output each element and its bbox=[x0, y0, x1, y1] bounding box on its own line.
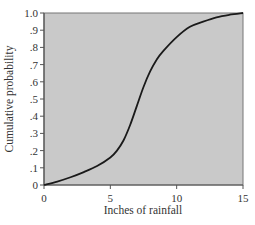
y-axis-ticks: 0.1.2.3.4.5.6.7.8.91.0 bbox=[24, 7, 44, 191]
y-tick-label: .5 bbox=[30, 93, 39, 105]
y-tick-label: .4 bbox=[30, 110, 39, 122]
y-tick-label: .6 bbox=[30, 76, 39, 88]
x-tick-label: 15 bbox=[238, 192, 250, 204]
x-axis-title: Inches of rainfall bbox=[104, 204, 183, 216]
y-tick-label: .3 bbox=[30, 127, 39, 139]
y-tick-label: .2 bbox=[30, 145, 38, 157]
cdf-chart: 0.1.2.3.4.5.6.7.8.91.0 051015 Inches of … bbox=[0, 0, 255, 225]
y-tick-label: .7 bbox=[30, 59, 39, 71]
x-tick-label: 5 bbox=[108, 192, 114, 204]
y-tick-label: .8 bbox=[30, 41, 39, 53]
plot-area bbox=[44, 13, 243, 185]
y-tick-label: .9 bbox=[30, 24, 39, 36]
x-tick-label: 0 bbox=[41, 192, 47, 204]
y-tick-label: 1.0 bbox=[24, 7, 38, 19]
y-tick-label: .1 bbox=[30, 162, 38, 174]
y-axis-title: Cumulative probability bbox=[3, 45, 16, 152]
x-axis-ticks: 051015 bbox=[41, 185, 249, 204]
y-tick-label: 0 bbox=[33, 179, 39, 191]
x-tick-label: 10 bbox=[171, 192, 183, 204]
